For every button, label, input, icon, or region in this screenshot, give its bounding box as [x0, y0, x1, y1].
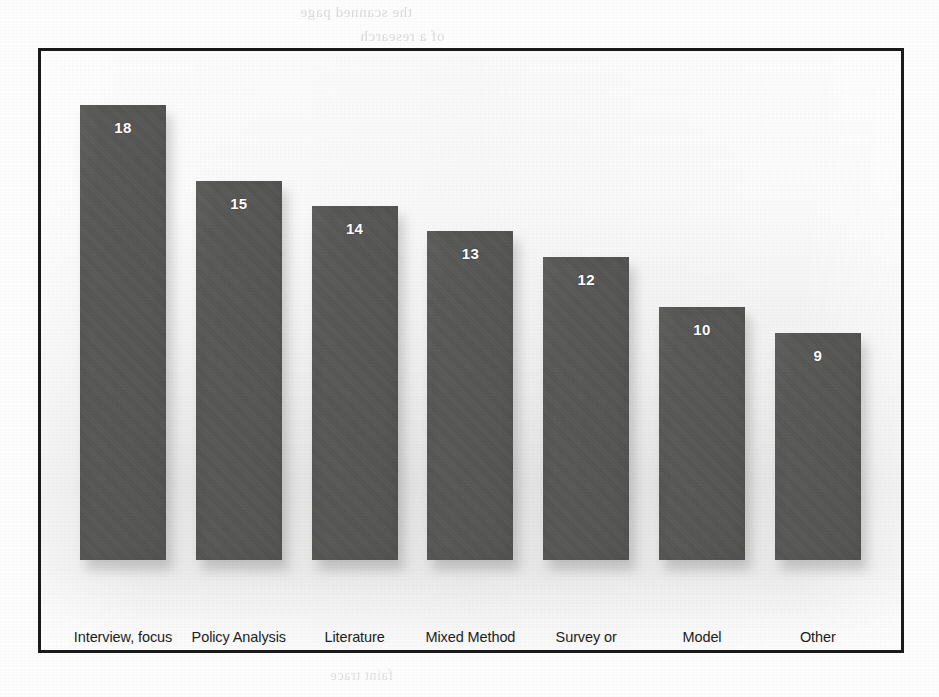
bar[interactable]: 12 [543, 257, 629, 560]
chart-frame: 18Interview, focusgroup orworkshop15Poli… [38, 48, 904, 653]
category-label: Survey orquestionnaire [520, 627, 652, 653]
category-label-line: Literature [289, 627, 421, 647]
category-label-line: Policy Analysis [173, 627, 305, 647]
bar[interactable]: 15 [196, 181, 282, 560]
bar-value-label: 18 [80, 119, 166, 136]
bar-group[interactable]: 15 [196, 181, 282, 560]
category-label: Other [752, 627, 884, 647]
bar-value-label: 13 [427, 245, 513, 262]
category-label: Model [636, 627, 768, 647]
category-label-line: Review [289, 647, 421, 653]
bar-value-label: 14 [312, 220, 398, 237]
category-label-line: Survey or [520, 627, 652, 647]
bar[interactable]: 13 [427, 231, 513, 560]
bar-group[interactable]: 14 [312, 206, 398, 560]
bar[interactable]: 9 [775, 333, 861, 561]
bar-value-label: 10 [659, 321, 745, 338]
category-label-line: Interview, focus [57, 627, 189, 647]
category-label: Policy Analysis [173, 627, 305, 647]
category-label-line: questionnaire [520, 647, 652, 653]
bar[interactable]: 18 [80, 105, 166, 560]
ghost-text-line: of a research [360, 28, 444, 45]
ghost-text-line: the scanned page [300, 4, 412, 21]
bar-value-label: 9 [775, 347, 861, 364]
bar-group[interactable]: 18 [80, 105, 166, 560]
bar[interactable]: 10 [659, 307, 745, 560]
category-label-line: group or [57, 647, 189, 653]
bar-value-label: 12 [543, 271, 629, 288]
bar-group[interactable]: 9 [775, 333, 861, 561]
category-label-line: Other [752, 627, 884, 647]
ghost-text-line: faint trace [330, 668, 393, 684]
category-label-line: Model [636, 627, 768, 647]
category-label: Interview, focusgroup orworkshop [57, 627, 189, 653]
bar-chart-plot-area: 18Interview, focusgroup orworkshop15Poli… [41, 51, 901, 650]
scanned-chart-page: the scanned page of a research faint sho… [0, 0, 939, 697]
category-label-line: Mixed Method [404, 627, 536, 647]
bar-group[interactable]: 13 [427, 231, 513, 560]
bar-group[interactable]: 10 [659, 307, 745, 560]
category-label: LiteratureReview [289, 627, 421, 653]
category-label-line: Approach [404, 647, 536, 653]
bar-group[interactable]: 12 [543, 257, 629, 560]
category-label: Mixed MethodApproach [404, 627, 536, 653]
bar-value-label: 15 [196, 195, 282, 212]
bar[interactable]: 14 [312, 206, 398, 560]
